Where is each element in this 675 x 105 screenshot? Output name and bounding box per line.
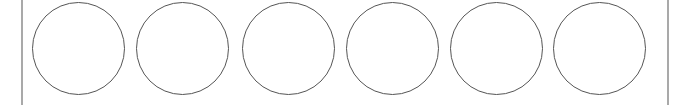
circle-5[interactable] xyxy=(450,2,543,95)
circle-2[interactable] xyxy=(136,2,229,95)
circle-3[interactable] xyxy=(242,2,335,95)
circle-6[interactable] xyxy=(553,2,646,95)
circle-4[interactable] xyxy=(346,2,439,95)
circle-1[interactable] xyxy=(32,2,125,95)
